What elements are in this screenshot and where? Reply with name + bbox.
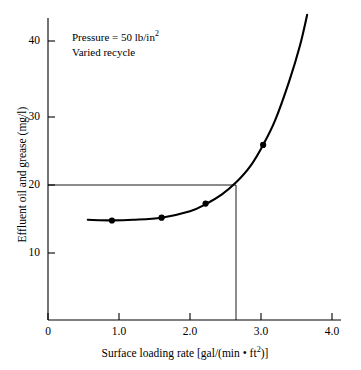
x-tick-label-3.0: 3.0 xyxy=(241,325,281,338)
x-tick-label-0: 0 xyxy=(28,325,68,338)
data-point xyxy=(109,217,115,223)
annotation-recycle-line: Varied recycle xyxy=(72,45,159,60)
data-point xyxy=(260,142,266,148)
chart-annotation: Pressure = 50 lb/in2 Varied recycle xyxy=(72,29,159,59)
annotation-pressure-exponent: 2 xyxy=(155,29,159,38)
x-tick-label-2.0: 2.0 xyxy=(170,325,210,338)
data-point xyxy=(159,215,165,221)
y-axis-title: Effluent oil and grease (mg/l) xyxy=(16,100,29,250)
x-axis-ticks xyxy=(48,313,332,320)
y-axis-ticks xyxy=(48,41,55,253)
chart-figure: 40 30 20 10 0 1.0 2.0 3.0 4.0 Effluent o… xyxy=(0,0,361,370)
x-axis-title-tail: )] xyxy=(261,347,269,359)
annotation-pressure-text: Pressure = 50 lb/in xyxy=(72,31,155,43)
x-axis-title: Surface loading rate [gal/(min • ft2)] xyxy=(70,345,300,360)
x-tick-label-4.0: 4.0 xyxy=(312,325,352,338)
data-point xyxy=(203,200,209,206)
chart-plot-area xyxy=(0,0,361,370)
annotation-pressure-line: Pressure = 50 lb/in2 xyxy=(72,29,159,45)
x-tick-label-1.0: 1.0 xyxy=(99,325,139,338)
x-axis-title-main: Surface loading rate [gal/(min • ft xyxy=(102,347,257,359)
y-tick-label-40: 40 xyxy=(10,34,40,47)
